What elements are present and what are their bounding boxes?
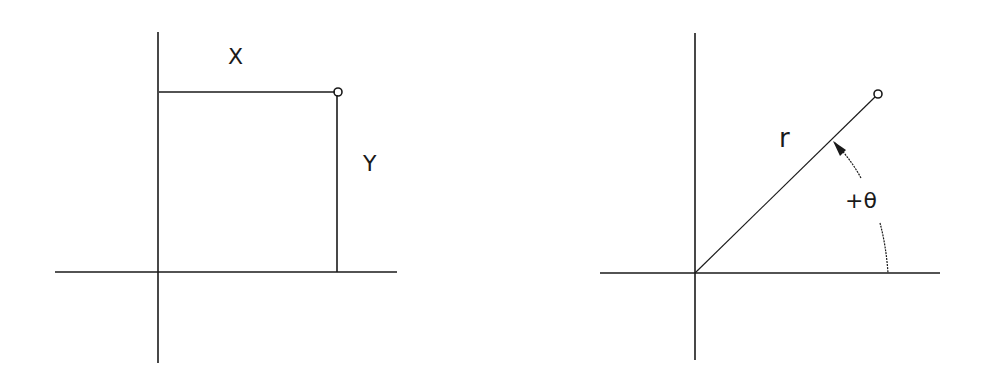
polar-diagram — [600, 33, 940, 360]
x-label: X — [228, 46, 243, 68]
cartesian-diagram — [55, 32, 397, 363]
r-label: r — [779, 125, 790, 151]
angle-arc — [880, 223, 888, 273]
cartesian-point-icon — [334, 88, 342, 96]
theta-label: +θ — [845, 190, 877, 212]
y-label: Y — [363, 153, 376, 175]
angle-arrowhead-icon — [833, 141, 846, 156]
polar-point-icon — [874, 90, 882, 98]
coordinate-diagrams — [0, 0, 986, 382]
